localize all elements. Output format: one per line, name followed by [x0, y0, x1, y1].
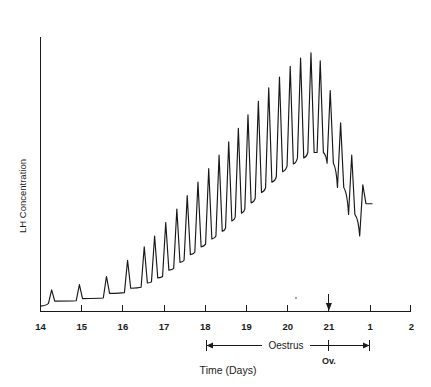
- chart-background: [0, 0, 431, 387]
- x-tick-label-1: 1: [367, 321, 373, 332]
- x-tick-label-2: 2: [409, 321, 414, 332]
- x-tick-label-19: 19: [241, 321, 252, 332]
- x-tick-label-15: 15: [76, 321, 87, 332]
- x-tick-label-14: 14: [35, 321, 46, 332]
- oestrus-label: Oestrus: [268, 340, 303, 351]
- chart-page: 14 15 16 17 18 19 20 21 1 2 Oestru: [0, 0, 431, 387]
- x-tick-label-20: 20: [282, 321, 293, 332]
- x-axis-title: Time (Days): [200, 364, 257, 376]
- ovulation-label: Ov.: [322, 356, 336, 366]
- y-axis-title: LH Concentration: [17, 159, 28, 233]
- x-tick-label-18: 18: [200, 321, 211, 332]
- x-tick-label-21: 21: [324, 321, 335, 332]
- x-tick-label-16: 16: [118, 321, 129, 332]
- x-tick-label-17: 17: [159, 321, 170, 332]
- lh-concentration-chart: 14 15 16 17 18 19 20 21 1 2 Oestru: [0, 0, 431, 387]
- scan-speck: [295, 297, 297, 299]
